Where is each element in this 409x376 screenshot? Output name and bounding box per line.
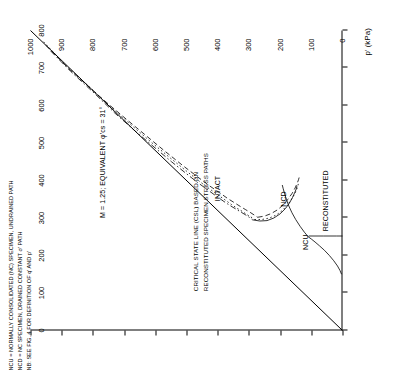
annotation-reconstituted: RECONSTITUTED <box>321 170 328 231</box>
y-tick <box>248 330 249 335</box>
annotation-csl-m-value: M = 1.25; EQUIVALENT φ'cs = 31° <box>98 106 105 218</box>
y-tick <box>92 330 93 335</box>
x-tick <box>342 217 347 218</box>
note-ncu: NCU = NORMALLY CONSOLIDATED (NC) SPECIME… <box>6 180 14 370</box>
y-tick <box>217 330 218 335</box>
note-ncd: NCD = NC SPECIMEN, DRAINED CONSTANT σ' P… <box>15 231 23 370</box>
annotation-csl-line1: CRITICAL STATE LINE (CSL) BASED ON <box>192 171 199 290</box>
plot-wrapper: NCU = NORMALLY CONSOLIDATED (NC) SPECIME… <box>0 0 409 376</box>
annotation-ncd: NCD <box>279 191 286 206</box>
annotation-intact: INTACT <box>214 175 221 200</box>
figure-root: NCU = NORMALLY CONSOLIDATED (NC) SPECIME… <box>0 0 409 376</box>
y-tick <box>186 330 187 335</box>
y-tick <box>280 330 281 335</box>
series-intact-undrained-1 <box>46 45 258 217</box>
series-intact-undrained-3 <box>50 51 252 220</box>
x-axis-label: p' (kPa) <box>362 28 371 55</box>
x-tick <box>342 292 347 293</box>
series-ncu-path <box>308 236 341 274</box>
series-intact-drained-up-3 <box>252 186 296 221</box>
x-tick <box>342 179 347 180</box>
annotation-csl-line2: RECONSTITUTED SPECIMEN STRESS PATHS <box>201 153 208 291</box>
plot-area: 0100200300400500600700800 01002003004005… <box>30 30 342 330</box>
y-tick <box>311 330 312 335</box>
x-tick <box>342 254 347 255</box>
x-tick <box>342 67 347 68</box>
series-csl <box>30 30 342 330</box>
rotated-figure: NCU = NORMALLY CONSOLIDATED (NC) SPECIME… <box>0 0 409 376</box>
x-tick <box>342 29 347 30</box>
series-intact-drained-up-2 <box>254 183 298 219</box>
x-tick <box>342 142 347 143</box>
series-intact-undrained-2 <box>43 41 254 219</box>
y-tick <box>61 330 62 335</box>
y-tick <box>155 330 156 335</box>
annotation-ncu: NCU <box>301 234 308 249</box>
y-tick <box>124 330 125 335</box>
y-tick <box>30 330 31 335</box>
curves-layer <box>30 30 342 330</box>
x-tick <box>342 104 347 105</box>
